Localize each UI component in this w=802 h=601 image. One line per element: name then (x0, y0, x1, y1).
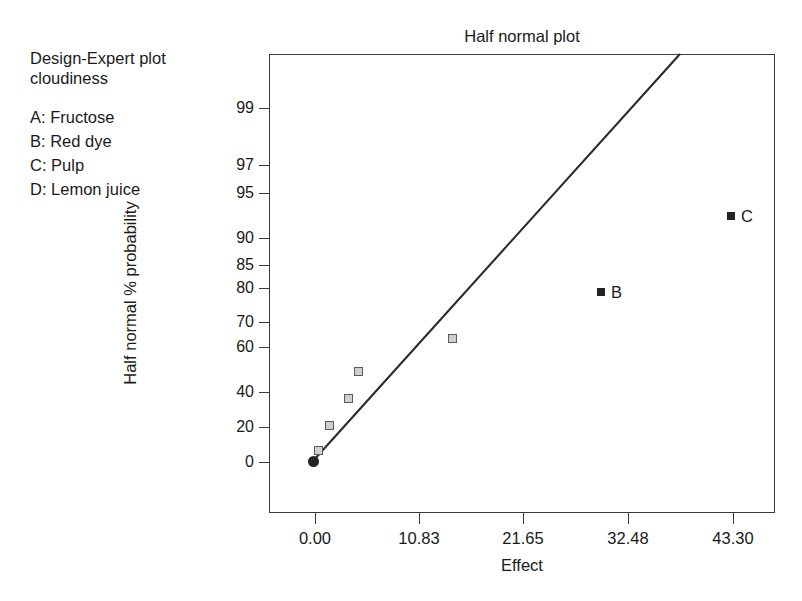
y-axis-tick-label: 60 (214, 339, 254, 355)
y-axis-tick-label: 20 (214, 419, 254, 435)
data-point-open-square (314, 446, 323, 455)
data-point-open-square (344, 394, 353, 403)
y-axis-tick-label: 80 (214, 280, 254, 296)
y-axis-tick-label: 70 (214, 314, 254, 330)
x-axis-tick (523, 513, 524, 524)
y-axis-tick-label: 99 (214, 100, 254, 116)
y-axis-tick-label: 40 (214, 384, 254, 400)
data-point-open-square (325, 421, 334, 430)
y-axis-tick-label: 90 (214, 230, 254, 246)
x-axis-tick (315, 513, 316, 524)
y-axis-tick (259, 427, 270, 428)
data-point-filled-square (727, 212, 735, 220)
data-point-open-square (448, 334, 457, 343)
y-axis-tick (259, 322, 270, 323)
half-normal-plot-chart: Half normal plot Half normal % probabili… (0, 0, 802, 601)
data-point-origin-circle (308, 456, 319, 467)
x-axis-tick-label: 0.00 (270, 528, 360, 548)
x-axis-tick-label: 21.65 (478, 528, 568, 548)
y-axis-tick (259, 193, 270, 194)
x-axis-tick (733, 513, 734, 524)
plot-frame (269, 54, 775, 513)
data-point-label-c: C (741, 207, 753, 225)
x-axis-tick-label: 32.48 (583, 528, 673, 548)
data-point-filled-square (597, 288, 605, 296)
y-axis-tick (259, 108, 270, 109)
x-axis-tick (419, 513, 420, 524)
y-axis-tick (259, 265, 270, 266)
y-axis-tick-label: 95 (214, 185, 254, 201)
y-axis-tick (259, 462, 270, 463)
y-axis-tick (259, 238, 270, 239)
x-axis-tick-label: 43.30 (688, 528, 778, 548)
x-axis-tick (628, 513, 629, 524)
y-axis-tick (259, 165, 270, 166)
y-axis-tick-label: 97 (214, 157, 254, 173)
y-axis-tick-label: 85 (214, 257, 254, 273)
chart-title: Half normal plot (269, 26, 775, 46)
x-axis-title: Effect (269, 555, 775, 575)
y-axis-title: Half normal % probability (120, 143, 140, 443)
data-point-label-b: B (611, 283, 622, 301)
y-axis-tick (259, 288, 270, 289)
y-axis-tick-label: 0 (214, 454, 254, 470)
y-axis-tick (259, 347, 270, 348)
x-axis-tick-label: 10.83 (374, 528, 464, 548)
data-point-open-square (354, 367, 363, 376)
y-axis-tick (259, 392, 270, 393)
